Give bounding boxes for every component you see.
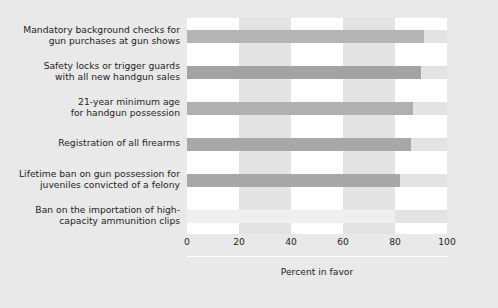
category-label-group: Mandatory background checks for gun purc… [0,18,180,234]
x-tick-label: 100 [438,236,456,247]
background-band [239,18,291,234]
plot-area [187,18,447,234]
bar [187,66,421,79]
bar-chart-figure: Mandatory background checks for gun purc… [0,0,498,308]
bar [187,210,395,223]
x-tick-label: 0 [184,236,190,247]
category-label: Safety locks or trigger guards with all … [0,60,180,83]
x-tick-label: 40 [285,236,297,247]
bar [187,102,413,115]
category-label: Ban on the importation of high- capacity… [0,204,180,227]
x-axis-label: Percent in favor [187,266,447,277]
bar [187,30,424,43]
background-band [343,18,395,234]
x-tick-label: 80 [389,236,401,247]
category-label: Mandatory background checks for gun purc… [0,24,180,47]
category-label: 21-year minimum age for handgun possessi… [0,96,180,119]
category-label: Lifetime ban on gun possession for juven… [0,168,180,191]
x-tick-label: 20 [233,236,245,247]
category-label: Registration of all firearms [0,137,180,149]
bar [187,138,411,151]
bar [187,174,400,187]
x-axis-line [187,256,448,257]
x-tick-label: 60 [337,236,349,247]
